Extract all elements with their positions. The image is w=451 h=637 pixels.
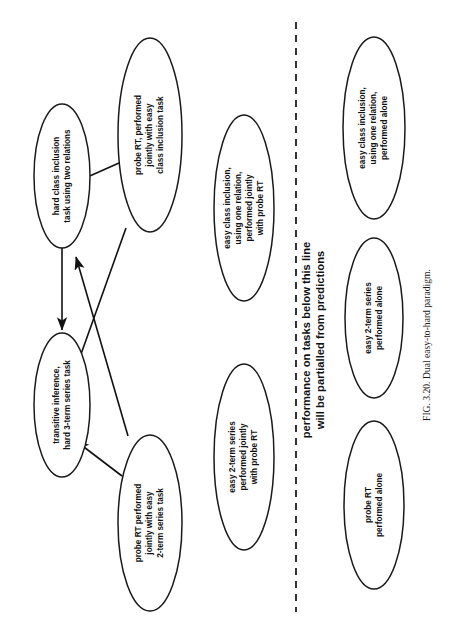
node-probe-rt-alone-ellipse[interactable] bbox=[344, 421, 404, 589]
node-probe-rt-alone-line2: performed alone bbox=[375, 472, 384, 537]
divider-note: performance on tasks below this line wil… bbox=[300, 242, 326, 438]
node-transitive-inference-line1: transitive inference, bbox=[52, 366, 61, 443]
node-transitive-inference-line2: hard 3-term series task bbox=[63, 360, 72, 450]
node-probe-rt-with-class-inclusion-line1: probe RT, performed bbox=[134, 95, 143, 175]
figure-page: hard class inclusion task using two rela… bbox=[0, 0, 451, 637]
divider-note-line2: will be partialled from predictions bbox=[314, 251, 326, 430]
node-easy-2term-series-alone-ellipse[interactable] bbox=[345, 238, 403, 398]
node-hard-class-inclusion[interactable]: hard class inclusion task using two rela… bbox=[34, 104, 90, 248]
figure-caption: FIG. 3.20. Dual easy-to-hard paradigm. bbox=[421, 269, 432, 421]
node-probe-rt-with-2term-series-line2: jointly with easy bbox=[145, 491, 154, 556]
dual-easy-to-hard-diagram: hard class inclusion task using two rela… bbox=[0, 0, 451, 637]
node-easy-class-inclusion-alone-line1: easy class inclusion, bbox=[358, 87, 367, 168]
node-probe-rt-with-2term-series-line3: 2-term series task bbox=[156, 488, 165, 558]
node-easy-2term-series-joint-line1: easy 2-term series bbox=[228, 421, 237, 493]
divider-note-line1: performance on tasks below this line bbox=[300, 242, 312, 438]
node-easy-2term-series-alone-line1: easy 2-term series bbox=[364, 282, 373, 354]
node-easy-class-inclusion-joint-line3: performed jointly bbox=[245, 174, 254, 241]
node-probe-rt-alone-line1: probe RT bbox=[364, 487, 373, 523]
node-probe-rt-with-2term-series[interactable]: probe RT performed jointly with easy 2-t… bbox=[118, 435, 182, 611]
node-hard-class-inclusion-line1: hard class inclusion bbox=[52, 137, 61, 216]
node-probe-rt-alone[interactable]: probe RT performed alone bbox=[344, 421, 404, 589]
node-probe-rt-with-class-inclusion[interactable]: probe RT, performed jointly with easy cl… bbox=[118, 38, 182, 232]
node-easy-2term-series-joint-line2: performed jointly bbox=[239, 423, 248, 490]
node-easy-class-inclusion-alone-line3: performed alone bbox=[380, 95, 389, 160]
node-hard-class-inclusion-line2: task using two relations bbox=[63, 129, 72, 223]
node-easy-class-inclusion-alone-line2: using one relation, bbox=[369, 92, 378, 165]
node-easy-2term-series-joint-line3: with probe RT bbox=[250, 430, 259, 486]
node-probe-rt-with-class-inclusion-line3: class inclusion task bbox=[156, 96, 165, 174]
node-transitive-inference-ellipse[interactable] bbox=[34, 333, 90, 477]
node-probe-rt-with-2term-series-line1: probe RT performed bbox=[134, 484, 143, 563]
node-easy-class-inclusion-joint-line1: easy class inclusion, bbox=[223, 167, 232, 248]
node-transitive-inference[interactable]: transitive inference, hard 3-term series… bbox=[34, 333, 90, 477]
node-probe-rt-with-class-inclusion-line2: jointly with easy bbox=[145, 103, 154, 168]
node-easy-class-inclusion-alone[interactable]: easy class inclusion, using one relation… bbox=[343, 37, 405, 219]
node-easy-2term-series-alone[interactable]: easy 2-term series performed alone bbox=[345, 238, 403, 398]
edge-probert-ci-to-transitive-inference bbox=[75, 228, 126, 371]
node-hard-class-inclusion-ellipse[interactable] bbox=[34, 104, 90, 248]
figure-caption-text: FIG. 3.20. Dual easy-to-hard paradigm. bbox=[421, 269, 432, 421]
node-easy-2term-series-joint[interactable]: easy 2-term series performed jointly wit… bbox=[214, 364, 274, 550]
node-easy-class-inclusion-joint[interactable]: easy class inclusion, using one relation… bbox=[214, 115, 274, 301]
node-easy-class-inclusion-joint-line2: using one relation, bbox=[234, 172, 243, 245]
node-easy-class-inclusion-joint-line4: with probe RT bbox=[256, 181, 265, 237]
node-easy-2term-series-alone-line2: performed alone bbox=[375, 285, 384, 350]
